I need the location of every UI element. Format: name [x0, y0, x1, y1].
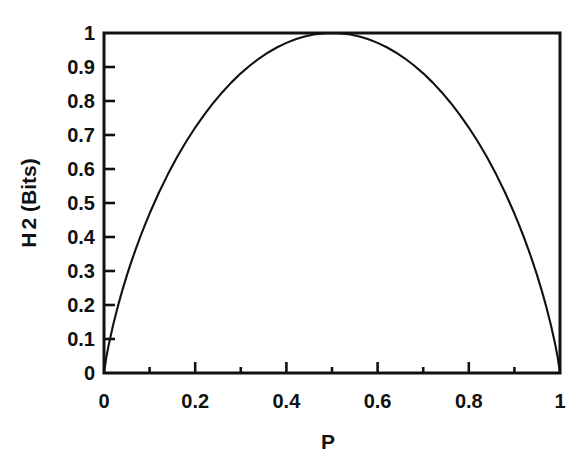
x-tick-label: 0.8 — [455, 390, 483, 412]
binary-entropy-chart: 00.20.40.60.81 00.10.20.30.40.50.60.70.8… — [0, 0, 588, 467]
y-axis-units: (Bits) — [17, 158, 40, 212]
y-tick-label: 0.6 — [67, 158, 95, 180]
y-tick-label: 0.2 — [67, 294, 95, 316]
x-tick-label: 0.4 — [272, 390, 301, 412]
y-tick-label: 0.4 — [67, 226, 96, 248]
x-axis-label: P — [321, 430, 335, 453]
y-axis-subscript: 2 — [17, 218, 40, 230]
y-tick-label: 0.9 — [67, 56, 95, 78]
x-tick-label: 0.2 — [181, 390, 209, 412]
y-axis-label-text: H2(Bits) — [17, 158, 40, 248]
y-tick-labels: 00.10.20.30.40.50.60.70.80.91 — [67, 22, 96, 384]
y-tick-label: 0 — [84, 362, 95, 384]
y-tick-label: 0.1 — [67, 328, 95, 350]
y-tick-label: 0.7 — [67, 124, 95, 146]
x-tick-label: 0.6 — [364, 390, 392, 412]
chart-figure: 00.20.40.60.81 00.10.20.30.40.50.60.70.8… — [0, 0, 588, 467]
y-tick-label: 0.5 — [67, 192, 95, 214]
x-tick-label: 0 — [98, 390, 109, 412]
y-tick-label: 1 — [84, 22, 95, 44]
y-axis-label: H2(Bits) — [17, 158, 40, 248]
y-tick-label: 0.8 — [67, 90, 95, 112]
y-tick-label: 0.3 — [67, 260, 95, 282]
y-axis-symbol: H — [17, 233, 40, 248]
x-tick-label: 1 — [554, 390, 565, 412]
